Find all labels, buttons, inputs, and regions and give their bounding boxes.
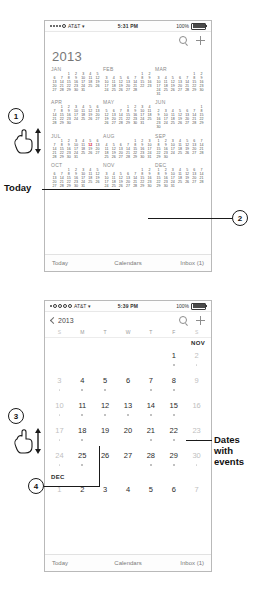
day-cell[interactable]: 20 bbox=[117, 422, 140, 447]
day-cell[interactable]: 26 bbox=[94, 447, 117, 472]
plus-icon[interactable] bbox=[196, 36, 205, 45]
mini-month-jul[interactable]: JUL.123456789101112131415161718192021222… bbox=[50, 133, 102, 163]
day-number: 6 bbox=[126, 377, 130, 385]
phone-screen-month-view: AT&T ▾ 5:39 PM 100% 2013 SMTWTFS NOV 12 bbox=[44, 300, 212, 572]
day-number: 3 bbox=[103, 486, 107, 494]
mini-month-aug[interactable]: AUG....123456789101112131415161718192021… bbox=[102, 133, 154, 163]
day-cell[interactable]: 1 bbox=[48, 481, 71, 506]
day-cell[interactable]: 25 bbox=[71, 447, 94, 472]
day-cell[interactable]: 19 bbox=[94, 422, 117, 447]
carrier-name: AT&T bbox=[68, 23, 80, 29]
day-cell[interactable]: 16 bbox=[185, 397, 208, 422]
day-cell[interactable]: 5 bbox=[94, 372, 117, 397]
mini-month-days: .123456789101112131415161718192021222324… bbox=[51, 106, 101, 126]
mini-month-may[interactable]: MAY...1234567891011121314151617181920212… bbox=[102, 99, 154, 132]
mini-day: 24 bbox=[169, 152, 176, 156]
battery-icon bbox=[191, 303, 206, 310]
search-icon[interactable] bbox=[179, 316, 187, 324]
event-dot-icon bbox=[173, 464, 175, 466]
day-number: 5 bbox=[149, 486, 153, 494]
mini-month-label: MAR bbox=[155, 66, 205, 72]
tab-calendars[interactable]: Calendars bbox=[103, 560, 154, 566]
mini-month-oct[interactable]: OCT..12345678910111213141516171819202122… bbox=[50, 162, 102, 192]
mini-day: 30 bbox=[162, 185, 169, 189]
tab-inbox[interactable]: Inbox (1) bbox=[153, 560, 211, 566]
day-cell[interactable]: 10 bbox=[48, 397, 71, 422]
search-icon[interactable] bbox=[179, 36, 187, 44]
day-row: 3456789 bbox=[48, 372, 208, 397]
day-cell[interactable]: 11 bbox=[71, 397, 94, 422]
tab-inbox[interactable]: Inbox (1) bbox=[153, 260, 211, 266]
day-number: 4 bbox=[126, 486, 130, 494]
mini-month-jan[interactable]: JAN..12345678910111213141516171819202122… bbox=[50, 66, 102, 99]
chevron-left-icon bbox=[50, 316, 57, 323]
day-cell[interactable]: 15 bbox=[162, 397, 185, 422]
mini-month-mar[interactable]: MAR.....12345678910111213141516171819202… bbox=[154, 66, 206, 99]
nav-actions bbox=[179, 36, 205, 45]
day-cell[interactable]: 27 bbox=[117, 447, 140, 472]
day-cell[interactable]: 3 bbox=[94, 481, 117, 506]
day-cell[interactable]: 9 bbox=[185, 372, 208, 397]
day-cell[interactable]: 7 bbox=[185, 481, 208, 506]
plus-icon[interactable] bbox=[196, 316, 205, 325]
mini-month-nov[interactable]: NOV.....12345678910111213141516171819202… bbox=[102, 162, 154, 192]
day-cell[interactable]: 5 bbox=[139, 481, 162, 506]
november-day-grid[interactable]: 1234567891011121314151617181920212223242… bbox=[48, 347, 208, 472]
day-cell[interactable]: 21 bbox=[139, 422, 162, 447]
tab-calendars[interactable]: Calendars bbox=[103, 260, 154, 266]
day-cell-empty bbox=[71, 347, 94, 372]
day-cell[interactable]: 13 bbox=[117, 397, 140, 422]
phone-screen-year-view: AT&T ▾ 5:31 PM 100% 2013 JAN..1234567891… bbox=[44, 20, 212, 272]
status-bar-time: 5:31 PM bbox=[118, 23, 138, 29]
mini-day: 27 bbox=[124, 185, 131, 189]
day-cell[interactable]: 6 bbox=[117, 372, 140, 397]
weekday-label: T bbox=[139, 329, 162, 335]
day-cell[interactable]: 6 bbox=[162, 481, 185, 506]
day-cell[interactable]: 28 bbox=[139, 447, 162, 472]
day-cell[interactable]: 7 bbox=[139, 372, 162, 397]
status-bar-left: AT&T ▾ bbox=[50, 303, 118, 309]
callout-2-label: 2 bbox=[238, 214, 242, 223]
day-cell[interactable]: 22 bbox=[162, 422, 185, 447]
mini-month-label: AUG bbox=[103, 133, 153, 139]
today-annotation-label: Today bbox=[4, 182, 31, 193]
mini-day: 25 bbox=[87, 85, 94, 89]
day-cell[interactable]: 29 bbox=[162, 447, 185, 472]
day-cell[interactable]: 2 bbox=[185, 347, 208, 372]
day-cell[interactable]: 3 bbox=[48, 372, 71, 397]
month-scroll-area[interactable]: NOV 123456789101112131415161718192021222… bbox=[45, 338, 211, 506]
day-cell[interactable]: 12 bbox=[94, 397, 117, 422]
december-day-grid[interactable]: 1234567 bbox=[48, 481, 208, 506]
tab-bar-month: Today Calendars Inbox (1) bbox=[45, 554, 211, 571]
mini-month-sep[interactable]: SEP1234567891011121314151617181920212223… bbox=[154, 133, 206, 163]
back-to-year-button[interactable]: 2013 bbox=[51, 317, 74, 324]
event-dot-icon bbox=[173, 414, 175, 416]
day-cell[interactable]: 24 bbox=[48, 447, 71, 472]
year-month-grid[interactable]: JAN..12345678910111213141516171819202122… bbox=[45, 66, 211, 192]
mini-day: 29 bbox=[58, 156, 65, 160]
weekday-label: W bbox=[117, 329, 140, 335]
day-cell[interactable]: 30 bbox=[185, 447, 208, 472]
day-cell[interactable]: 1 bbox=[162, 347, 185, 372]
mini-month-jun[interactable]: JUN......1234567891011121314151617181920… bbox=[154, 99, 206, 132]
mini-month-dec[interactable]: DEC1234567891011121314151617181920212223… bbox=[154, 162, 206, 192]
tab-today[interactable]: Today bbox=[45, 260, 103, 266]
mini-day: 31 bbox=[72, 156, 79, 160]
day-cell[interactable]: 17 bbox=[48, 422, 71, 447]
day-cell[interactable]: 4 bbox=[71, 372, 94, 397]
day-cell[interactable]: 23 bbox=[185, 422, 208, 447]
day-cell[interactable]: 18 bbox=[71, 422, 94, 447]
dates-with-events-annotation-label: Dates with events bbox=[214, 434, 244, 467]
mini-month-days: 1234567891011121314151617181920212223242… bbox=[155, 140, 205, 160]
mini-day: 27 bbox=[51, 89, 58, 93]
mini-month-feb[interactable]: FEB.....12345678910111213141516171819202… bbox=[102, 66, 154, 99]
tab-today[interactable]: Today bbox=[45, 560, 103, 566]
mini-day: 28 bbox=[132, 89, 139, 93]
day-cell[interactable]: 2 bbox=[71, 481, 94, 506]
event-dot-icon bbox=[81, 439, 83, 441]
day-cell[interactable]: 8 bbox=[162, 372, 185, 397]
day-cell[interactable]: 4 bbox=[117, 481, 140, 506]
mini-month-apr[interactable]: APR.123456789101112131415161718192021222… bbox=[50, 99, 102, 132]
day-cell[interactable]: 14 bbox=[139, 397, 162, 422]
signal-strength-icon bbox=[50, 304, 72, 308]
